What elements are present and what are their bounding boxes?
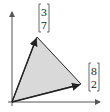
vector-label-8-2: 8 2 — [89, 63, 99, 91]
vector-label-3-7: 3 7 — [39, 4, 49, 32]
label-bottom: 7 — [41, 20, 47, 31]
label-bottom: 2 — [91, 79, 97, 90]
label-top: 3 — [41, 7, 47, 18]
vector-diagram: 3 7 8 2 — [0, 0, 110, 112]
shaded-triangle — [12, 37, 81, 102]
label-top: 8 — [91, 66, 97, 77]
